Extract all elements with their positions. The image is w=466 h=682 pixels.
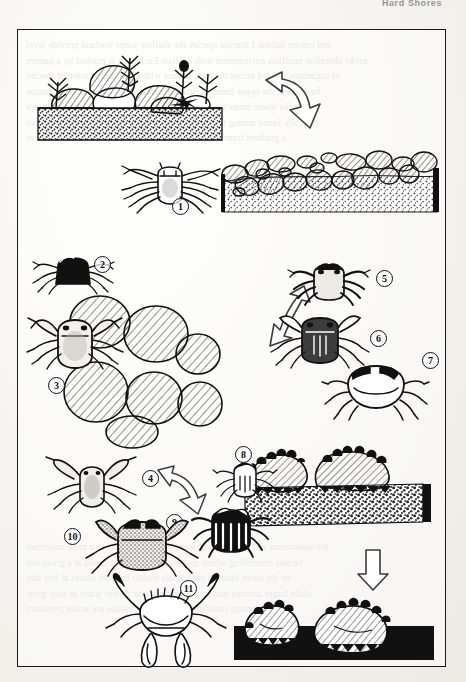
callout-5: 5: [376, 270, 393, 287]
arrow-down-to-black-panel: [356, 548, 390, 592]
crab-specimen-8: [212, 458, 278, 504]
callout-1: 1: [172, 198, 189, 215]
callout-2: 2: [94, 256, 111, 273]
running-head: Hard Shores: [382, 0, 442, 8]
callout-3: 3: [48, 377, 65, 394]
arrow-boulder-to-cobble: [260, 66, 334, 132]
callout-11: 11: [180, 580, 197, 597]
scanned-page: Hard Shores and colony habitat Littorina…: [0, 0, 466, 682]
figure-frame: 1: [17, 29, 446, 667]
crab-specimen-7: [318, 358, 430, 422]
boulder-shore-habitat: [32, 48, 228, 152]
callout-7: 7: [422, 352, 439, 369]
crab-specimen-5: [286, 258, 372, 308]
callout-10: 10: [64, 528, 81, 545]
callout-8: 8: [235, 446, 252, 463]
crab-specimen-11: [92, 570, 238, 674]
callout-6: 6: [370, 330, 387, 347]
rocks-on-black-substrate: [234, 600, 448, 664]
cobble-field-habitat: [221, 138, 439, 216]
crab-specimen-4: [40, 454, 144, 518]
crab-specimen-1: [114, 160, 224, 216]
crab-specimen-3: [22, 312, 128, 374]
